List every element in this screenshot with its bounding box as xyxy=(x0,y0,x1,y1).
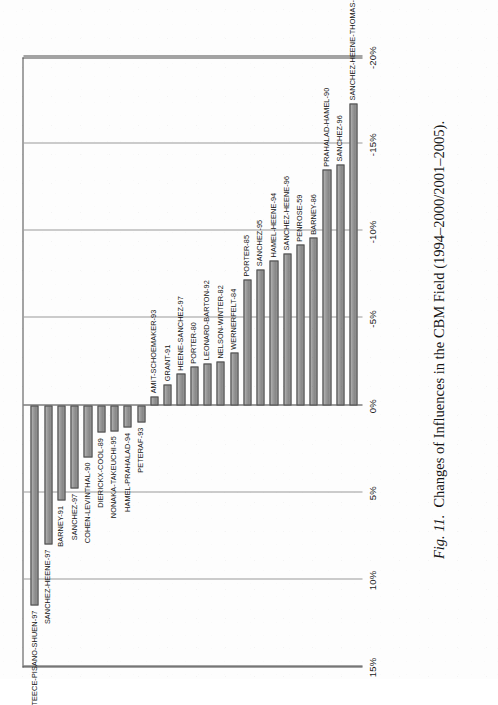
bar xyxy=(123,405,131,428)
bar-label: SANCHEZ-95 xyxy=(255,219,263,265)
bar-label: HEENE-SANCHEZ-97 xyxy=(176,296,184,371)
figure-number: Fig. 11. xyxy=(430,514,446,558)
bar-label: SANCHEZ-HEENE-96 xyxy=(282,175,290,250)
bar-label: PORTER-85 xyxy=(242,234,250,276)
figure-caption: Fig. 11.Changes of Influences in the CBM… xyxy=(430,0,447,679)
bar-label: PENROSE-59 xyxy=(295,194,303,241)
bar xyxy=(137,405,145,422)
bar xyxy=(150,396,158,405)
bar xyxy=(230,352,238,404)
tick-label-5: 5% xyxy=(366,486,377,500)
bar-label: PRAHALAD-HAMEL-90 xyxy=(322,87,330,166)
tick-label-15: 15% xyxy=(366,657,377,677)
bar-label: WERNERFELT-84 xyxy=(229,288,237,349)
tick-label-neg20: -20% xyxy=(366,46,377,69)
bar-label: SANCHEZ-HEENE-THOMAS-96 xyxy=(348,0,356,100)
gridline-10 xyxy=(23,578,362,579)
bar-label: DIERICKX-COOL-89 xyxy=(96,437,104,507)
bar xyxy=(97,405,105,433)
bar-label: SANCHEZ-96 xyxy=(335,115,343,161)
bar-label: HAMEL-PRAHALAD-94 xyxy=(123,432,131,511)
bar-label: PETERAF-93 xyxy=(136,427,144,472)
chart-area: 15%10%5%0%-5%-10%-15%-20% TEECE-PISANO-S… xyxy=(22,57,400,667)
tick-label-10: 10% xyxy=(366,570,377,590)
gridline-neg15 xyxy=(23,142,362,143)
bar-label: BARNEY-86 xyxy=(309,193,317,234)
bar-label: HAMEL-HEENE-94 xyxy=(269,192,277,257)
bar xyxy=(269,260,277,405)
bar xyxy=(283,253,291,405)
bar xyxy=(336,164,344,405)
bar xyxy=(203,363,211,405)
tick-label-neg15: -15% xyxy=(366,133,377,156)
bar xyxy=(57,405,65,501)
bar-label: AMIT-SCHOEMAKER-93 xyxy=(149,309,157,393)
bar-label: BARNEY-91 xyxy=(56,505,64,546)
tick-label-0: 0% xyxy=(366,399,377,413)
bar xyxy=(216,361,224,405)
gridline-5 xyxy=(23,491,362,492)
bar xyxy=(322,169,330,404)
bar xyxy=(163,384,171,405)
bar xyxy=(309,237,317,404)
bar-label: NONAKA-TAKEUCHI-95 xyxy=(109,436,117,518)
bar xyxy=(256,269,264,405)
bar xyxy=(70,405,78,489)
bar xyxy=(243,279,251,404)
bar xyxy=(349,103,357,405)
bar-label: TEECE-PISANO-SHUEN-97 xyxy=(30,610,38,705)
tick-label-neg5: -5% xyxy=(366,310,377,328)
bar-label: SANCHEZ-97 xyxy=(70,493,78,539)
bar xyxy=(176,373,184,404)
bar-label: SANCHEZ-HEENE-97 xyxy=(43,549,51,624)
bar-label: COHEN-LEVINTHAL-90 xyxy=(83,462,91,543)
gridline-neg20 xyxy=(23,55,362,56)
bar-label: LEONARD-BARTON-92 xyxy=(202,280,210,360)
figure-caption-text: Changes of Influences in the CBM Field (… xyxy=(430,120,446,507)
bar xyxy=(190,366,198,404)
bar-label: NELSON-WINTER-82 xyxy=(216,285,224,358)
bar-label: PORTER-80 xyxy=(189,322,197,364)
bar xyxy=(296,244,304,404)
bar xyxy=(30,405,38,605)
bar-label: GRANT-91 xyxy=(163,344,171,380)
gridline-15 xyxy=(23,665,362,666)
bar xyxy=(110,405,118,431)
tick-label-neg10: -10% xyxy=(366,220,377,243)
bar xyxy=(83,405,91,457)
bar xyxy=(44,405,52,544)
